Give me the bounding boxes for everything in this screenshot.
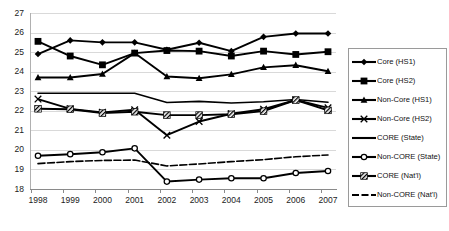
x-tick-mark bbox=[289, 189, 290, 193]
legend-item-non-core-hs2[interactable]: Non-Core (HS2) bbox=[351, 109, 446, 128]
legend-item-non-core-nat-l[interactable]: Non-CORE (Nat'l) bbox=[351, 185, 446, 204]
dashed-line-icon bbox=[351, 187, 377, 203]
chart-legend: Core (HS1)Core (HS2)Non-Core (HS1)Non-Co… bbox=[348, 48, 447, 207]
y-tick-label: 26 bbox=[0, 28, 24, 36]
filled-triangle-icon bbox=[351, 92, 377, 108]
x-axis-line bbox=[30, 189, 337, 190]
gridline bbox=[30, 150, 336, 151]
y-tick-label: 24 bbox=[0, 67, 24, 75]
legend-label: Non-CORE (Nat'l) bbox=[377, 190, 438, 199]
legend-label: Non-Core (HS1) bbox=[377, 95, 432, 104]
legend-item-core-nat-l[interactable]: CORE (Nat'l) bbox=[351, 166, 446, 185]
x-tick-mark bbox=[224, 189, 225, 193]
filled-square-icon bbox=[351, 73, 377, 89]
x-tick-mark bbox=[192, 189, 193, 193]
x-tick-mark bbox=[95, 189, 96, 193]
y-tick-label: 20 bbox=[0, 145, 24, 153]
open-circle-icon bbox=[351, 149, 377, 165]
legend-label: Non-Core (HS2) bbox=[377, 114, 432, 123]
gridline bbox=[30, 91, 336, 92]
legend-item-core-hs1[interactable]: Core (HS1) bbox=[351, 52, 446, 71]
gridline bbox=[30, 72, 336, 73]
x-tick-mark bbox=[63, 189, 64, 193]
cross-x-icon bbox=[351, 111, 377, 127]
y-tick-label: 18 bbox=[0, 185, 24, 193]
legend-label: CORE (State) bbox=[377, 133, 424, 142]
y-tick-label: 25 bbox=[0, 48, 24, 56]
y-tick-label: 19 bbox=[0, 165, 24, 173]
legend-label: Core (HS1) bbox=[377, 57, 415, 66]
gridline bbox=[30, 13, 336, 14]
x-tick-label: 2007 bbox=[308, 196, 348, 205]
y-tick-label: 27 bbox=[0, 9, 24, 17]
legend-label: CORE (Nat'l) bbox=[377, 171, 421, 180]
legend-item-core-hs2[interactable]: Core (HS2) bbox=[351, 71, 446, 90]
legend-label: Non-CORE (State) bbox=[377, 152, 440, 161]
x-tick-mark bbox=[31, 189, 32, 193]
plot-area bbox=[30, 13, 336, 189]
y-axis-line bbox=[30, 13, 31, 190]
x-tick-mark bbox=[257, 189, 258, 193]
x-tick-mark bbox=[321, 189, 322, 193]
legend-item-non-core-hs1[interactable]: Non-Core (HS1) bbox=[351, 90, 446, 109]
chart-screenshot: 18192021222324252627 1998199920002001200… bbox=[0, 0, 449, 231]
gridline bbox=[30, 130, 336, 131]
legend-label: Core (HS2) bbox=[377, 76, 415, 85]
gridline bbox=[30, 52, 336, 53]
hatched-icon bbox=[351, 168, 377, 184]
legend-item-non-core-state[interactable]: Non-CORE (State) bbox=[351, 147, 446, 166]
gridline bbox=[30, 169, 336, 170]
y-tick-label: 23 bbox=[0, 87, 24, 95]
gridline bbox=[30, 33, 336, 34]
filled-diamond-icon bbox=[351, 54, 377, 70]
x-tick-mark bbox=[128, 189, 129, 193]
y-tick-label: 22 bbox=[0, 106, 24, 114]
x-tick-mark bbox=[160, 189, 161, 193]
legend-item-core-state[interactable]: CORE (State) bbox=[351, 128, 446, 147]
none-icon bbox=[351, 130, 377, 146]
gridline bbox=[30, 111, 336, 112]
y-tick-label: 21 bbox=[0, 126, 24, 134]
